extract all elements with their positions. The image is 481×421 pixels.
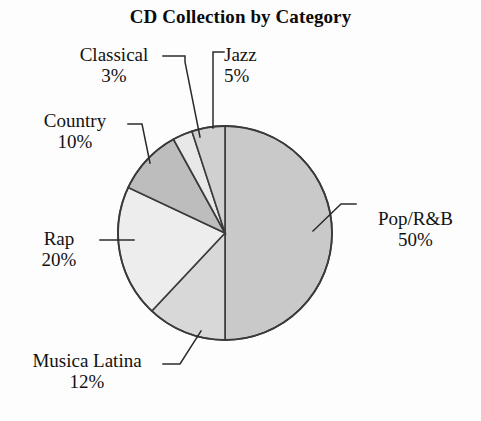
leader-line-jazz [213,52,224,128]
callout-musica-latina-category: Musica Latina [12,350,162,371]
callout-pop-rb: Pop/R&B 50% [358,208,473,251]
callout-rap-percent: 20% [18,249,100,270]
callout-musica-latina-percent: 12% [12,371,162,392]
callout-country: Country 10% [20,110,130,153]
callout-jazz-percent: 5% [224,65,314,86]
pie-chart-figure: CD Collection by Category [0,0,481,421]
callout-jazz-category: Jazz [224,44,314,65]
callout-jazz: Jazz 5% [224,44,314,87]
callout-classical-percent: 3% [54,65,174,86]
callout-classical: Classical 3% [54,44,174,87]
callout-classical-category: Classical [54,44,174,65]
callout-country-category: Country [20,110,130,131]
callout-musica-latina: Musica Latina 12% [12,350,162,393]
leader-line-country [128,124,150,163]
pie-slices [118,126,332,340]
callout-rap-category: Rap [18,228,100,249]
callout-pop-rb-category: Pop/R&B [358,208,473,229]
callout-country-percent: 10% [20,131,130,152]
callout-pop-rb-percent: 50% [358,229,473,250]
pie-slice-pop-rb[interactable] [225,126,332,340]
callout-rap: Rap 20% [18,228,100,271]
